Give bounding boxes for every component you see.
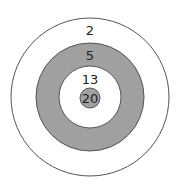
ring-outer-label: 2 bbox=[86, 23, 94, 38]
bullseye-label: 20 bbox=[82, 91, 99, 106]
ring-inner-label: 13 bbox=[82, 72, 99, 87]
ring-second-label: 5 bbox=[86, 48, 94, 63]
target-diagram: 2 5 13 20 bbox=[0, 0, 177, 189]
